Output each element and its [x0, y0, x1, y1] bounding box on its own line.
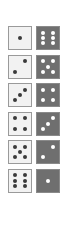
die-dark-one-icon	[36, 169, 60, 193]
die-light-five-icon	[8, 140, 32, 164]
pip-icon	[23, 179, 27, 183]
pip-icon	[41, 31, 45, 35]
pip-icon	[23, 173, 27, 177]
pip-icon	[18, 36, 22, 40]
pip-icon	[18, 93, 22, 97]
pip-icon	[23, 127, 27, 131]
pip-icon	[13, 127, 17, 131]
pip-icon	[41, 98, 45, 102]
pip-icon	[46, 65, 50, 69]
pip-icon	[46, 179, 50, 183]
pip-icon	[51, 31, 55, 35]
pip-icon	[41, 127, 45, 131]
dice-pair-row	[8, 83, 60, 107]
die-dark-six-icon	[36, 26, 60, 50]
pip-icon	[46, 122, 50, 126]
pip-icon	[13, 179, 17, 183]
die-dark-two-icon	[36, 140, 60, 164]
die-light-one-icon	[8, 26, 32, 50]
dice-pair-row	[8, 140, 60, 164]
die-light-four-icon	[8, 112, 32, 136]
dice-pair-row	[8, 112, 60, 136]
dice-pair-row	[8, 55, 60, 79]
dice-grid	[8, 26, 60, 197]
pip-icon	[41, 70, 45, 74]
pip-icon	[23, 184, 27, 188]
pip-icon	[23, 59, 27, 63]
pip-icon	[41, 88, 45, 92]
pip-icon	[51, 116, 55, 120]
pip-icon	[23, 155, 27, 159]
pip-icon	[18, 150, 22, 154]
pip-icon	[41, 155, 45, 159]
pip-icon	[41, 41, 45, 45]
pip-icon	[13, 98, 17, 102]
die-dark-five-icon	[36, 55, 60, 79]
pip-icon	[23, 88, 27, 92]
die-light-three-icon	[8, 83, 32, 107]
pip-icon	[13, 184, 17, 188]
dice-pair-row	[8, 169, 60, 193]
pip-icon	[51, 41, 55, 45]
pip-icon	[51, 98, 55, 102]
pip-icon	[41, 36, 45, 40]
pip-icon	[13, 173, 17, 177]
die-light-six-icon	[8, 169, 32, 193]
die-dark-four-icon	[36, 83, 60, 107]
pip-icon	[51, 36, 55, 40]
die-light-two-icon	[8, 55, 32, 79]
pip-icon	[51, 145, 55, 149]
pip-icon	[23, 116, 27, 120]
pip-icon	[51, 59, 55, 63]
pip-icon	[13, 116, 17, 120]
pip-icon	[23, 145, 27, 149]
pip-icon	[41, 59, 45, 63]
pip-icon	[13, 155, 17, 159]
dice-pair-row	[8, 26, 60, 50]
pip-icon	[13, 70, 17, 74]
pip-icon	[51, 70, 55, 74]
pip-icon	[51, 88, 55, 92]
pip-icon	[13, 145, 17, 149]
die-dark-three-icon	[36, 112, 60, 136]
